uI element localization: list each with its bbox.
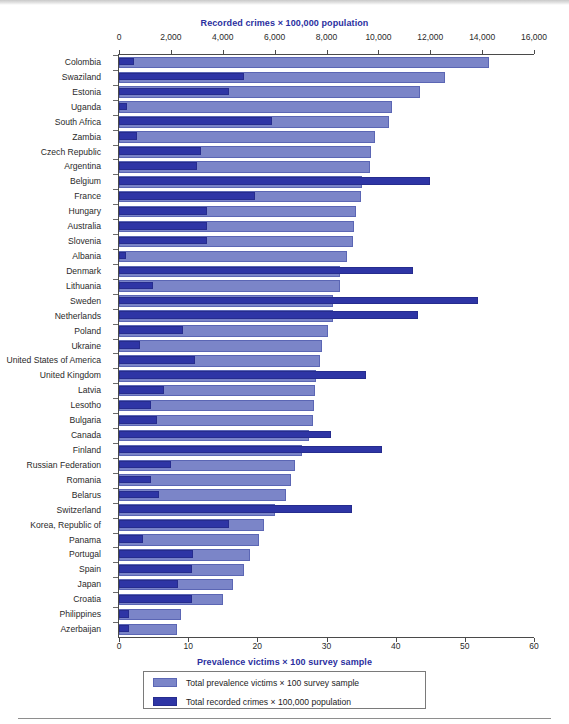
bar-recorded-crimes[interactable] [119,446,382,454]
bar-recorded-crimes[interactable] [119,341,140,349]
bar-recorded-crimes[interactable] [119,192,255,200]
bar-row[interactable] [119,130,534,145]
bar-recorded-crimes[interactable] [119,297,478,305]
bar-recorded-crimes[interactable] [119,476,151,484]
bar-recorded-crimes[interactable] [119,73,244,81]
bar-row[interactable] [119,339,534,354]
bar-recorded-crimes[interactable] [119,117,272,125]
bar-row[interactable] [119,518,534,533]
bar-recorded-crimes[interactable] [119,491,159,499]
bar-row[interactable] [119,279,534,294]
bar-recorded-crimes[interactable] [119,565,192,573]
bar-recorded-crimes[interactable] [119,356,195,364]
bar-recorded-crimes[interactable] [119,103,127,111]
bar-recorded-crimes[interactable] [119,580,178,588]
bar-recorded-crimes[interactable] [119,177,430,185]
bar-row[interactable] [119,607,534,622]
bar-prevalence-victims[interactable] [119,251,347,263]
bar-row[interactable] [119,55,534,70]
bar-recorded-crimes[interactable] [119,371,366,379]
bar-row[interactable] [119,159,534,174]
bar-row[interactable] [119,70,534,85]
bar-row[interactable] [119,115,534,130]
bar-row[interactable] [119,562,534,577]
category-axis-tick [113,219,118,220]
bar-recorded-crimes[interactable] [119,595,192,603]
bar-recorded-crimes[interactable] [119,610,129,618]
bar-recorded-crimes[interactable] [119,58,134,66]
bar-row[interactable] [119,443,534,458]
category-axis-tick [113,100,118,101]
bar-recorded-crimes[interactable] [119,237,207,245]
bar-recorded-crimes[interactable] [119,252,126,260]
bar-recorded-crimes[interactable] [119,132,137,140]
bar-row[interactable] [119,264,534,279]
bar-row[interactable] [119,547,534,562]
bar-recorded-crimes[interactable] [119,311,418,319]
category-label: Denmark [66,266,101,276]
bar-row[interactable] [119,577,534,592]
bar-prevalence-victims[interactable] [119,131,375,143]
bar-row[interactable] [119,189,534,204]
category-axis-tick [113,488,118,489]
bar-prevalence-victims[interactable] [119,340,322,352]
bar-row[interactable] [119,428,534,443]
legend-swatch-prevalence [153,678,177,687]
bar-recorded-crimes[interactable] [119,162,197,170]
bar-row[interactable] [119,145,534,160]
bar-recorded-crimes[interactable] [119,147,201,155]
bar-row[interactable] [119,100,534,115]
bar-row[interactable] [119,294,534,309]
category-label: United Kingdom [40,370,101,380]
bar-recorded-crimes[interactable] [119,282,153,290]
category-label: Azerbaijan [60,624,101,634]
bar-recorded-crimes[interactable] [119,401,151,409]
bar-recorded-crimes[interactable] [119,326,183,334]
bar-row[interactable] [119,309,534,324]
bar-row[interactable] [119,488,534,503]
bar-row[interactable] [119,219,534,234]
bar-recorded-crimes[interactable] [119,267,413,275]
bar-recorded-crimes[interactable] [119,222,207,230]
bar-row[interactable] [119,234,534,249]
bar-row[interactable] [119,533,534,548]
bar-recorded-crimes[interactable] [119,431,331,439]
bar-row[interactable] [119,249,534,264]
bar-recorded-crimes[interactable] [119,88,229,96]
bar-recorded-crimes[interactable] [119,416,157,424]
footer-rule [18,718,551,719]
bar-row[interactable] [119,204,534,219]
category-label: Sweden [70,296,101,306]
bar-recorded-crimes[interactable] [119,535,143,543]
bar-recorded-crimes[interactable] [119,386,164,394]
bar-row[interactable] [119,353,534,368]
bar-row[interactable] [119,503,534,518]
bar-recorded-crimes[interactable] [119,550,193,558]
bar-row[interactable] [119,85,534,100]
bar-row[interactable] [119,368,534,383]
category-labels: ColombiaSwazilandEstoniaUgandaSouth Afri… [0,55,111,637]
category-axis-tick [113,174,118,175]
bar-recorded-crimes[interactable] [119,520,229,528]
bar-row[interactable] [119,413,534,428]
bar-row[interactable] [119,398,534,413]
bar-row[interactable] [119,383,534,398]
bar-recorded-crimes[interactable] [119,625,129,633]
bar-prevalence-victims[interactable] [119,101,392,113]
bar-row[interactable] [119,458,534,473]
bar-recorded-crimes[interactable] [119,207,207,215]
bar-prevalence-victims[interactable] [119,57,489,69]
category-axis-tick [113,443,118,444]
bar-recorded-crimes[interactable] [119,461,171,469]
bar-row[interactable] [119,174,534,189]
bar-recorded-crimes[interactable] [119,505,352,513]
category-label: Panama [69,535,101,545]
bar-row[interactable] [119,473,534,488]
category-label: Switzerland [57,505,101,515]
bottom-axis-tick-label: 40 [391,641,400,651]
bar-row[interactable] [119,592,534,607]
bar-row[interactable] [119,324,534,339]
category-label: Colombia [65,57,101,67]
bar-row[interactable] [119,622,534,637]
top-axis-tick-label: 6,000 [264,32,285,42]
